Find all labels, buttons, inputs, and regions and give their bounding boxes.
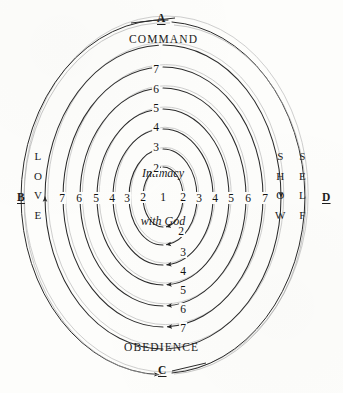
- love-letter-e: E: [35, 206, 42, 226]
- ring-number-bottom-7: 7: [179, 322, 187, 334]
- ring-number-row-left-3: 3: [123, 192, 131, 204]
- word-command: COMMAND: [129, 33, 198, 45]
- a-connector-line: [131, 18, 175, 23]
- diagram-canvas: A COMMAND OBEDIENCE C B L O V E S H O W …: [0, 0, 343, 393]
- ring-number-top-2: 2: [152, 162, 160, 174]
- concentric-rings-figure: [0, 0, 343, 393]
- ring-number-bottom-4: 4: [179, 265, 187, 277]
- ring-number-row-center-1: 1: [159, 191, 167, 203]
- word-love-stack: L O V E: [34, 147, 42, 225]
- ring-number-bottom-6: 6: [179, 303, 187, 315]
- center-text-line1: Intimacy: [142, 166, 184, 181]
- word-self-stack: S E L F: [299, 147, 306, 225]
- cardinal-label-d: D: [322, 191, 331, 203]
- word-obedience: OBEDIENCE: [124, 341, 199, 353]
- ring-number-top-7: 7: [152, 63, 160, 75]
- love-letter-o: O: [34, 167, 42, 187]
- ring-number-row-right-2: 2: [179, 191, 187, 203]
- self-letter-f: F: [299, 206, 305, 226]
- ring-number-row-left-7: 7: [58, 192, 66, 204]
- ring-number-row-left-4: 4: [108, 192, 116, 204]
- ring-number-top-3: 3: [152, 141, 160, 153]
- ring-number-top-5: 5: [152, 102, 160, 114]
- ring-number-row-right-6: 6: [244, 192, 252, 204]
- ring-number-row-right-4: 4: [211, 192, 219, 204]
- cardinal-label-b: B: [17, 191, 25, 203]
- show-letter-w: W: [275, 206, 286, 226]
- ring-number-row-left-5: 5: [92, 192, 100, 204]
- ring-number-top-4: 4: [152, 121, 160, 133]
- ring-number-bottom-2: 2: [177, 225, 185, 237]
- show-letter-h: H: [276, 167, 284, 187]
- ring-number-top-6: 6: [152, 83, 160, 95]
- word-show-stack: S H O W: [275, 147, 286, 225]
- cardinal-label-c: C: [158, 364, 167, 376]
- self-letter-l: L: [299, 186, 306, 206]
- ring-number-row-left-6: 6: [75, 192, 83, 204]
- ring-number-row-right-3: 3: [195, 192, 203, 204]
- self-letter-s: S: [299, 147, 305, 167]
- ring-number-bottom-3: 3: [179, 246, 187, 258]
- self-letter-e: E: [299, 167, 306, 187]
- cardinal-label-a: A: [157, 12, 166, 24]
- show-letter-s: S: [277, 147, 283, 167]
- ring-number-row-left-2: 2: [139, 191, 147, 203]
- ring-number-bottom-5: 5: [179, 284, 187, 296]
- show-letter-o: O: [276, 186, 284, 206]
- love-letter-v: V: [34, 186, 42, 206]
- ring-number-row-right-7: 7: [261, 192, 269, 204]
- ring-number-row-right-5: 5: [227, 192, 235, 204]
- love-letter-l: L: [35, 147, 42, 167]
